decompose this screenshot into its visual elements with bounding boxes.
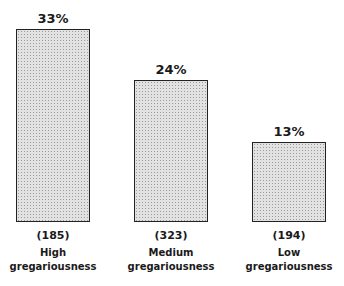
sample-size-high: (185) — [0, 229, 108, 242]
category-line-1: High — [0, 246, 113, 260]
category-line-2: gregariousness — [229, 260, 344, 274]
sample-size-low: (194) — [234, 229, 344, 242]
bar-high — [16, 29, 90, 222]
value-label-low: 13% — [252, 124, 326, 139]
bar-low — [252, 142, 326, 222]
bar-medium — [134, 80, 208, 222]
sample-size-medium: (323) — [116, 229, 226, 242]
category-line-1: Low — [229, 246, 344, 260]
value-label-high: 33% — [16, 11, 90, 26]
category-line-1: Medium — [111, 246, 231, 260]
category-line-2: gregariousness — [111, 260, 231, 274]
category-label-medium: Medium gregariousness — [111, 246, 231, 274]
category-line-2: gregariousness — [0, 260, 113, 274]
category-label-high: High gregariousness — [0, 246, 113, 274]
category-label-low: Low gregariousness — [229, 246, 344, 274]
value-label-medium: 24% — [134, 62, 208, 77]
